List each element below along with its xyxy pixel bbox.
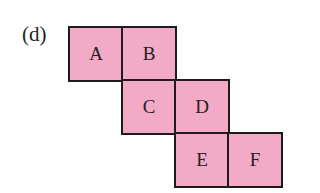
square-d: D bbox=[174, 79, 230, 135]
square-letter: C bbox=[143, 96, 156, 118]
square-letter: E bbox=[196, 149, 208, 171]
square-a: A bbox=[68, 26, 124, 82]
square-b: B bbox=[121, 26, 177, 82]
square-letter: B bbox=[143, 43, 156, 65]
square-e: E bbox=[174, 132, 230, 188]
square-c: C bbox=[121, 79, 177, 135]
square-letter: D bbox=[195, 96, 209, 118]
square-f: F bbox=[227, 132, 283, 188]
square-letter: A bbox=[89, 43, 103, 65]
square-letter: F bbox=[250, 149, 261, 171]
figure-label: (d) bbox=[22, 24, 47, 45]
